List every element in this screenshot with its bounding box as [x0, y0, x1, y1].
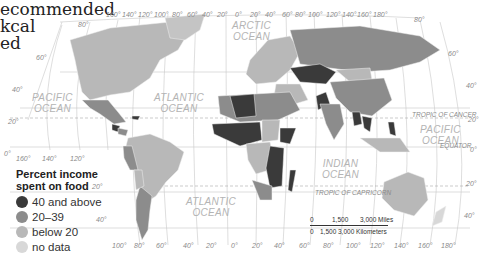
latitude-label: 60° [36, 54, 47, 61]
longitude-label: 180° [441, 242, 455, 249]
longitude-label: 120° [370, 242, 384, 249]
longitude-label: 80° [134, 242, 145, 249]
caption-line: ed [0, 34, 21, 53]
longitude-label: 140° [42, 155, 56, 162]
longitude-label: 160° [418, 242, 432, 249]
south-america [123, 134, 184, 240]
longitude-label: 160° [357, 11, 371, 18]
latitude-label: 40° [466, 82, 477, 89]
longitude-label: 100° [308, 11, 322, 18]
ocean-label-arctic: ARCTICOCEAN [232, 20, 271, 42]
longitude-label: 40° [202, 11, 213, 18]
longitude-label: 120° [326, 11, 340, 18]
longitude-label: 0° [231, 242, 238, 249]
longitude-label: 40° [183, 242, 194, 249]
legend-title: spent on food [16, 180, 102, 192]
longitude-label: 20° [250, 11, 261, 18]
longitude-label: 20° [252, 242, 263, 249]
latitude-label: 20° [468, 116, 479, 123]
longitude-label: 0° [235, 11, 242, 18]
latitude-label: 20° [8, 118, 19, 125]
swatch-icon [16, 226, 28, 238]
tropic-of-capricorn-label: TROPIC OF CAPRICORN [315, 189, 391, 196]
longitude-label: 140° [122, 11, 136, 18]
longitude-label: 40° [274, 242, 285, 249]
legend-item-no-data: no data [16, 239, 102, 254]
longitude-label: 80° [172, 11, 183, 18]
longitude-label: 60° [156, 242, 167, 249]
legend-item-40-and-above: 40 and above [16, 194, 102, 209]
ocean-label-atlantic-north: ATLANTICOCEAN [154, 92, 204, 114]
ocean-label-indian: INDIANOCEAN [322, 158, 359, 180]
longitude-label: 160° [16, 155, 30, 162]
scale-bar: 0 1,500 3,000 Miles 0 1,500 3,000 Kilome… [310, 216, 420, 238]
longitude-label: 80° [295, 11, 306, 18]
longitude-label: 100° [346, 242, 360, 249]
longitude-label: 80° [323, 242, 334, 249]
ocean-label-pacific-west: PACIFICOCEAN [32, 92, 73, 114]
longitude-label: 160° [106, 11, 120, 18]
legend-title: Percent income [16, 168, 102, 180]
swatch-icon [16, 211, 28, 223]
longitude-label: 180° [373, 11, 387, 18]
longitude-label: 140° [394, 242, 408, 249]
legend-item-below-20: below 20 [16, 224, 102, 239]
swatch-icon [16, 196, 28, 208]
longitude-label: 60° [282, 11, 293, 18]
legend: Percent income spent on food 40 and abov… [16, 168, 102, 254]
equator-label: EQUATOR [440, 142, 472, 149]
legend-item-20-39: 20–39 [16, 209, 102, 224]
longitude-label: 40° [265, 11, 276, 18]
longitude-label: 100° [112, 242, 126, 249]
longitude-label: 100° [154, 11, 168, 18]
longitude-label: 60° [187, 11, 198, 18]
longitude-label: 120° [138, 11, 152, 18]
latitude-label: 80° [78, 21, 89, 28]
latitude-label: 0° [4, 150, 11, 157]
longitude-label: 20° [217, 11, 228, 18]
latitude-label: 60° [448, 50, 459, 57]
longitude-label: 20° [206, 242, 217, 249]
tropic-of-cancer-label: TROPIC OF CANCER [412, 111, 477, 118]
latitude-label: 20° [466, 180, 477, 187]
longitude-label: 120° [70, 155, 84, 162]
longitude-label: 60° [299, 242, 310, 249]
latitude-label: 0° [470, 146, 477, 153]
latitude-label: 40° [464, 212, 475, 219]
latitude-label: 80° [414, 16, 425, 23]
swatch-icon [16, 241, 28, 253]
ocean-label-atlantic-south: ATLANTICOCEAN [186, 196, 236, 218]
longitude-label: 140° [342, 11, 356, 18]
latitude-label: 40° [12, 86, 23, 93]
